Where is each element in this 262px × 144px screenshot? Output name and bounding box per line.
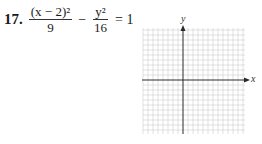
coordinate-grid	[0, 0, 262, 144]
y-axis-label: y	[181, 13, 185, 24]
y-axis-arrow-icon	[181, 25, 186, 31]
x-axis-arrow-icon	[244, 78, 250, 83]
x-axis-label: x	[251, 73, 255, 84]
